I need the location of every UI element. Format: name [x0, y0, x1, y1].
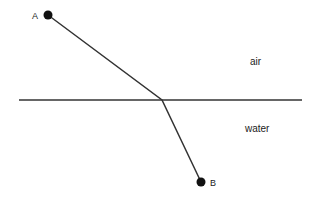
medium-water-label: water: [244, 123, 270, 134]
point-a-dot: [44, 11, 53, 20]
refraction-diagram: A B air water: [0, 0, 318, 203]
point-b-label: B: [210, 178, 216, 188]
point-a-label: A: [32, 11, 38, 21]
medium-air-label: air: [250, 56, 262, 67]
light-path: [48, 15, 201, 182]
point-b-dot: [197, 178, 206, 187]
